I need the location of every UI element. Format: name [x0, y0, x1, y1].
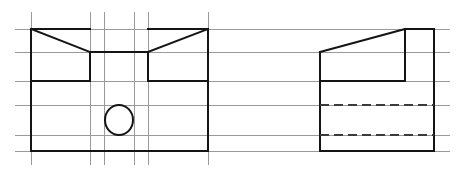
front-top-right-chamfer [148, 29, 208, 52]
drawing-sheet [0, 0, 460, 170]
front-top-left-chamfer [31, 29, 90, 52]
through-hole-circle [105, 105, 133, 135]
side-slant-edge [320, 29, 405, 52]
front-view [31, 29, 208, 151]
side-view [320, 29, 434, 151]
orthographic-drawing-canvas [0, 0, 460, 170]
